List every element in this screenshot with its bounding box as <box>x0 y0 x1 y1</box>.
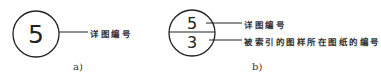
sheet-number-b: 3 <box>187 33 197 52</box>
detail-symbol-a: 5 <box>13 11 88 57</box>
label-detail-number-a: 详图编号 <box>90 27 132 39</box>
caption-b: b) <box>252 61 262 72</box>
index-symbol-b: 5 3 <box>169 10 242 56</box>
label-detail-number-b: 详图编号 <box>244 18 286 30</box>
caption-a: a) <box>73 61 83 72</box>
detail-number-b: 5 <box>187 14 197 33</box>
label-sheet-number-b: 被索引的图样所在图纸的编号 <box>244 35 381 47</box>
detail-number-a: 5 <box>28 20 44 49</box>
